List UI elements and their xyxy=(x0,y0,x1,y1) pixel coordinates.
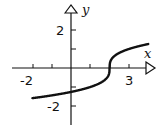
x-tick-label-3: 3 xyxy=(125,73,133,88)
chart: -2 3 2 -2 y x xyxy=(0,0,160,130)
y-tick-label-2: 2 xyxy=(56,23,64,38)
x-axis-arrow-icon xyxy=(146,62,155,74)
y-axis-arrow-icon xyxy=(65,5,77,13)
x-tick-label-neg2: -2 xyxy=(20,73,33,88)
function-curve xyxy=(32,44,148,98)
x-axis-label: x xyxy=(144,46,152,61)
y-axis-label: y xyxy=(81,2,90,17)
y-tick-label-neg2: -2 xyxy=(47,99,60,114)
